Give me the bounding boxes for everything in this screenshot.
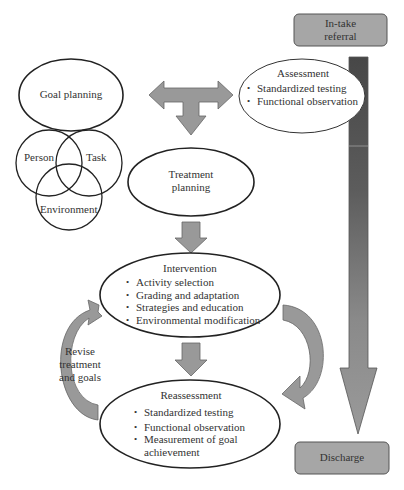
assessment-list: Standardized testing Functional observat…: [247, 82, 359, 107]
goal-planning-label: Goal planning: [19, 88, 123, 101]
treatment-line2: planning: [128, 181, 254, 194]
reassessment-item: Standardized testing: [134, 406, 248, 419]
down-arrow-to-intervention: [175, 222, 207, 253]
intake-line2: referral: [294, 30, 387, 43]
revise-line2: treatment: [50, 358, 110, 371]
assessment-text: Assessment Standardized testing Function…: [247, 67, 359, 107]
revise-line1: Revise: [50, 345, 110, 358]
reassessment-item-continued: achievement: [134, 446, 248, 459]
reassessment-item: Functional observation: [134, 421, 248, 434]
revise-line3: and goals: [50, 371, 110, 384]
intervention-item: Environmental modification: [126, 314, 260, 327]
intake-referral-label: In-take referral: [294, 17, 387, 43]
revise-label: Revise treatment and goals: [50, 345, 110, 384]
assessment-item: Functional observation: [247, 95, 359, 108]
reassessment-title: Reassessment: [134, 389, 248, 402]
reassessment-text: Reassessment Standardized testing Functi…: [134, 389, 248, 458]
venn-task-label: Task: [86, 151, 107, 164]
reassessment-list: Standardized testing Functional observat…: [134, 406, 248, 446]
discharge-label: Discharge: [295, 451, 389, 464]
down-arrow-to-reassessment: [175, 343, 207, 376]
venn-environment-circle: [36, 164, 102, 230]
treatment-line1: Treatment: [128, 168, 254, 181]
treatment-planning-label: Treatment planning: [128, 168, 254, 194]
three-way-arrow: [149, 81, 233, 135]
assessment-item: Standardized testing: [247, 82, 359, 95]
intervention-item: Strategies and education: [126, 301, 260, 314]
intake-line1: In-take: [294, 17, 387, 30]
venn-person-label: Person: [24, 151, 54, 164]
reassessment-item: Measurement of goal: [134, 433, 248, 446]
intervention-item: Grading and adaptation: [126, 289, 260, 302]
intervention-text: Intervention Activity selection Grading …: [126, 262, 260, 326]
intervention-item: Activity selection: [126, 276, 260, 289]
intervention-list: Activity selection Grading and adaptatio…: [126, 276, 260, 326]
assessment-title: Assessment: [247, 67, 359, 80]
curved-arrow-right: [282, 305, 323, 409]
intervention-title: Intervention: [126, 262, 254, 275]
venn-environment-label: Environment: [40, 203, 97, 216]
